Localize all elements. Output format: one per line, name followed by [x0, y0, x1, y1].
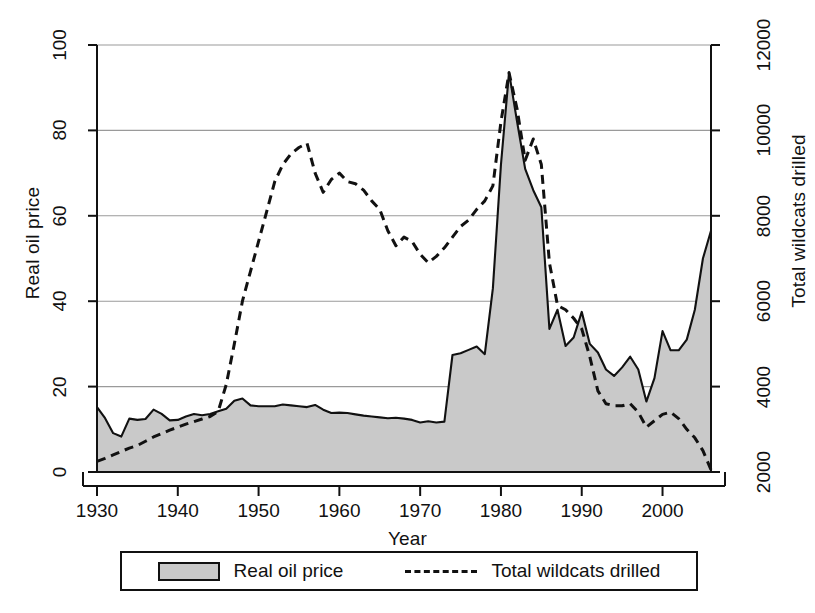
- x-axis-title: Year: [0, 528, 815, 550]
- y-axis-left-tick-label: 100: [49, 17, 71, 73]
- legend-dashed-line-icon: [405, 570, 477, 573]
- y-axis-right-tick-label: 6000: [753, 263, 775, 339]
- y-axis-left-tick-label: 80: [49, 102, 71, 158]
- y-axis-left-tick-label: 40: [49, 273, 71, 329]
- y-axis-left-tick-label: 60: [49, 188, 71, 244]
- x-axis-tick-label: 1950: [219, 500, 299, 522]
- y-axis-right-tick-label: 4000: [753, 349, 775, 425]
- y-axis-right-tick-label: 8000: [753, 178, 775, 254]
- y-axis-left-tick-label: 20: [49, 359, 71, 415]
- y-axis-right-title: Total wildcats drilled: [788, 91, 810, 351]
- y-axis-right-tick-label: 12000: [753, 7, 775, 83]
- figure: 020406080100 20004000600080001000012000 …: [0, 0, 815, 613]
- area-fill: [97, 72, 711, 472]
- y-axis-left-title: Real oil price: [22, 148, 44, 338]
- y-axis-left-tick-label: 0: [49, 444, 71, 500]
- x-axis-tick-label: 1970: [380, 500, 460, 522]
- legend-item-total-wildcats-drilled: Total wildcats drilled: [405, 560, 660, 582]
- figure-caption: [8, 598, 808, 613]
- x-axis-tick-label: 1990: [542, 500, 622, 522]
- y-axis-right-tick-label: 2000: [753, 434, 775, 510]
- legend-swatch-icon: [158, 562, 220, 581]
- x-axis-tick-label: 1930: [57, 500, 137, 522]
- x-axis-tick-label: 1940: [138, 500, 218, 522]
- x-axis-tick-label: 2000: [623, 500, 703, 522]
- chart-legend: Real oil price Total wildcats drilled: [120, 551, 698, 591]
- legend-item-real-oil-price: Real oil price: [158, 560, 344, 582]
- legend-label-real-oil-price: Real oil price: [234, 560, 344, 582]
- x-axis-tick-label: 1960: [299, 500, 379, 522]
- y-axis-right-tick-label: 10000: [753, 92, 775, 168]
- area-series-real-oil-price: [97, 72, 711, 472]
- legend-label-total-wildcats-drilled: Total wildcats drilled: [491, 560, 660, 582]
- x-axis-tick-label: 1980: [461, 500, 541, 522]
